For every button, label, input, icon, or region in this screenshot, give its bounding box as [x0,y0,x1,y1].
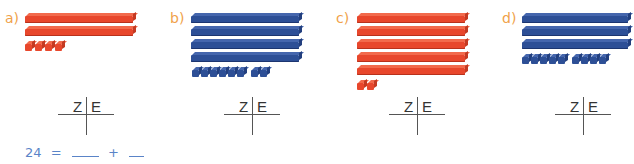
decomposition-equation: 24 = + [25,144,144,160]
tens-header: Z [570,98,579,115]
unit-cube [581,57,588,64]
exercise-label-b: b) [170,11,184,25]
unit-cube [590,57,597,64]
place-value-table-a[interactable]: Z E [58,97,114,135]
unit-cube [35,44,42,51]
ones-header: E [422,98,432,115]
ones-header: E [257,98,267,115]
unit-cube [540,57,547,64]
unit-cube [531,57,538,64]
unit-cube [55,44,62,51]
place-value-table-d[interactable]: Z E [555,97,611,135]
ten-rod [357,68,465,75]
place-value-table-b[interactable]: Z E [224,97,280,135]
ones-header: E [588,98,598,115]
unit-cube [210,70,217,77]
exercise-label-c: c) [336,11,349,25]
unit-cube [192,70,199,77]
unit-cube [572,57,579,64]
unit-cube [228,70,235,77]
equation-number: 24 [25,145,42,160]
ten-rod [357,55,465,62]
ten-rod [357,16,465,23]
ten-rod [357,42,465,49]
ten-rod [522,29,628,36]
tens-header: Z [73,98,82,115]
ten-rod [357,29,465,36]
equals-sign: = [51,145,62,160]
tens-header: Z [239,98,248,115]
ten-rod [522,42,628,49]
table-divider-vertical [583,97,584,135]
plus-sign: + [108,145,119,160]
ones-header: E [91,98,101,115]
ten-rod [191,55,299,62]
unit-cube [357,83,364,90]
unit-cube [367,83,374,90]
table-divider-vertical [86,97,87,135]
unit-cube [45,44,52,51]
ten-rod [191,42,299,49]
exercise-label-d: d) [502,11,516,25]
table-divider-vertical [252,97,253,135]
unit-cube [219,70,226,77]
tens-header: Z [404,98,413,115]
table-divider-vertical [417,97,418,135]
place-value-table-c[interactable]: Z E [389,97,445,135]
unit-cube [599,57,606,64]
unit-cube [237,70,244,77]
ten-rod [191,16,299,23]
exercise-label-a: a) [5,11,19,25]
unit-cube [25,44,32,51]
ten-rod [191,29,299,36]
unit-cube [201,70,208,77]
unit-cube [251,70,258,77]
unit-cube [549,57,556,64]
ten-rod [25,16,133,23]
unit-cube [260,70,267,77]
ten-rod [25,29,133,36]
ones-answer-blank[interactable] [129,144,144,157]
ten-rod [522,16,628,23]
unit-cube [522,57,529,64]
tens-answer-blank[interactable] [72,144,99,157]
unit-cube [558,57,565,64]
